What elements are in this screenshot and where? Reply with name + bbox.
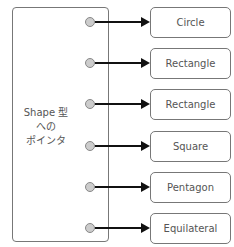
arrow-line-5 [95,186,142,188]
pointer-array-label: Shape 型 への ポインタ [12,106,80,148]
label-line-3: ポインタ [12,134,80,148]
arrow-line-2 [95,62,142,64]
arrow-line-4 [95,145,142,147]
pointer-dot-3 [85,99,95,109]
pointer-dot-2 [85,58,95,68]
arrowhead-icon [141,58,150,68]
pointer-dot-5 [85,182,95,192]
arrow-line-1 [95,21,142,23]
pointer-dot-6 [85,223,95,233]
target-box-circle: Circle [150,7,231,38]
label-line-2: への [12,120,80,134]
arrowhead-icon [141,223,150,233]
arrowhead-icon [141,17,150,27]
target-box-rectangle-1: Rectangle [150,48,231,79]
arrowhead-icon [141,182,150,192]
arrowhead-icon [141,99,150,109]
arrow-line-3 [95,103,142,105]
target-box-pentagon: Pentagon [150,172,231,203]
arrowhead-icon [141,141,150,151]
target-box-rectangle-2: Rectangle [150,89,231,120]
arrow-line-6 [95,227,142,229]
pointer-dot-1 [85,17,95,27]
label-line-1: Shape 型 [12,106,80,120]
pointer-dot-4 [85,141,95,151]
target-box-square: Square [150,131,231,162]
target-box-equilateral: Equilateral [150,213,231,244]
